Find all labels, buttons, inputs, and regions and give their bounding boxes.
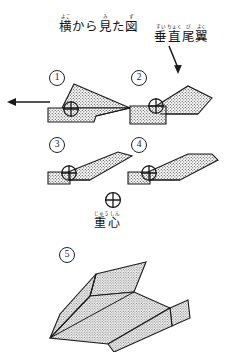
instruction-sheet: よこ 横 か ら み 見 た ず 図 すい 垂 ちょく [0,0,226,359]
page-title: よこ 横 か ら み 見 た ず 図 [59,14,138,33]
vstab-ruby-2: び 尾 [182,24,195,43]
title-ruby-3: み 見 [99,14,112,33]
cog-ruby-0: じゅう 重 [94,211,108,230]
vstab-rb-1: 直 [168,30,181,43]
circled-plus-icon [104,191,122,209]
step-4-diagram [126,146,222,190]
step-5-diagram [38,252,198,352]
vstab-ruby-1: ちょく 直 [167,24,181,43]
center-of-gravity-label: じゅう 重 しん 心 [94,211,122,230]
cog-ruby-1: しん 心 [108,211,122,230]
title-ruby-1: か [72,14,85,33]
vstab-ruby-0: すい 垂 [154,24,167,43]
step-1-diagram [44,78,136,126]
cog-rb-1: 心 [108,217,122,230]
vstab-ruby-3: よく 翼 [195,24,208,43]
title-ruby-5: ず 図 [125,14,138,33]
title-ruby-0: よこ 横 [59,14,72,33]
step-3-diagram [44,146,136,190]
title-rb-0: 横 [59,20,72,33]
cog-rb-0: 重 [94,217,108,230]
step-2-diagram [126,78,222,128]
title-rb-4: た [112,20,125,33]
vertical-stabilizer-label: すい 垂 ちょく 直 び 尾 よく 翼 [154,24,208,43]
vertical-stabilizer-pointer-arrow [163,44,193,76]
vstab-rb-3: 翼 [195,30,208,43]
vstab-rb-0: 垂 [154,30,167,43]
vstab-rb-2: 尾 [182,30,195,43]
title-ruby-2: ら [85,14,98,33]
title-rb-1: か [72,20,85,33]
title-rb-3: 見 [99,20,112,33]
title-rb-2: ら [85,20,98,33]
title-rb-5: 図 [125,20,138,33]
title-ruby-4: た [112,14,125,33]
